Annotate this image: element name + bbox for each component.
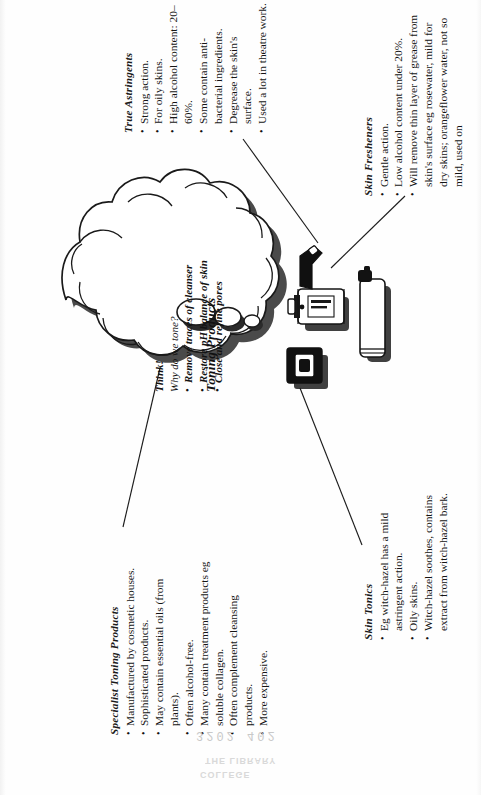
connector-skin-fresheners xyxy=(331,196,405,268)
bullet-item: Gentle action. xyxy=(377,6,392,196)
cloud-point: Remove traces of cleanser xyxy=(181,242,196,392)
bullet-item: High alcohol content: 20–60%. xyxy=(166,3,196,133)
barcode-digits: 3202 402 xyxy=(196,728,278,742)
branch-bullets: Gentle action. Low alcohol content under… xyxy=(377,6,466,196)
bullet-item: For oily skins. xyxy=(151,3,166,133)
branch-bullets: Manufactured by cosmetic houses. Sophist… xyxy=(123,555,271,735)
branch-heading: Skin Fresheners xyxy=(362,6,376,196)
cloud-title: Think! xyxy=(152,242,167,392)
toner-jar-icon xyxy=(287,348,328,389)
branch-heading: Skin Tonics xyxy=(362,490,376,640)
bullet-item: Used a lot in theatre work. xyxy=(255,3,270,133)
bullet-item: Oily skins. xyxy=(406,490,421,640)
bullet-item: Often complement cleansing products. xyxy=(226,555,256,735)
cloud-question: Why do we tone? xyxy=(167,242,182,392)
branch-bullets: Strong action. For oily skins. High alco… xyxy=(137,3,270,133)
bullet-item: Degrease the skin's surface. xyxy=(226,3,256,133)
bullet-item: Manufactured by cosmetic houses. xyxy=(123,555,138,735)
branch-heading: Specialist Toning Products xyxy=(108,555,122,735)
center-label: Toning Products xyxy=(203,297,219,392)
bullet-item: Many contain treatment products eg solub… xyxy=(197,554,227,735)
library-stamp-line1: THE LIBRARY xyxy=(205,756,276,766)
scanned-page: Think! Why do we tone? Remove traces of … xyxy=(0,0,481,795)
branch-heading: True Astringents xyxy=(122,3,136,133)
bullet-item: Witch-hazel soothes, contains extract fr… xyxy=(421,491,451,640)
bullet-item: Some contain anti-bacterial ingredients. xyxy=(196,6,226,133)
bullet-item: May contain essential oils (from plants)… xyxy=(152,555,182,735)
bullet-item: More expensive. xyxy=(256,555,271,735)
bullet-item: Eg witch-hazel has a mild astringent act… xyxy=(377,491,407,640)
connector-skin-tonics xyxy=(300,388,362,545)
branch-skin-tonics: Skin Tonics Eg witch-hazel has a mild as… xyxy=(362,490,451,640)
connector-true-astringents xyxy=(243,139,318,243)
bullet-item: Often alcohol-free. xyxy=(182,555,197,735)
branch-bullets: Eg witch-hazel has a mild astringent act… xyxy=(377,490,451,640)
branch-specialist-toning-products: Specialist Toning Products Manufactured … xyxy=(108,555,271,735)
bullet-item: Low alcohol content under 20%. xyxy=(391,6,406,196)
library-stamp-line2: COLLEGE xyxy=(200,770,251,780)
bullet-item: Will remove thin layer of grease from sk… xyxy=(406,5,465,196)
cosmetic-tube-icon xyxy=(358,266,391,362)
branch-skin-fresheners: Skin Fresheners Gentle action. Low alcoh… xyxy=(362,6,466,196)
pump-bottle-icon xyxy=(288,245,349,331)
branch-true-astringents: True Astringents Strong action. For oily… xyxy=(122,3,270,133)
bullet-item: Sophisticated products. xyxy=(137,555,152,735)
bullet-item: Strong action. xyxy=(137,3,152,133)
